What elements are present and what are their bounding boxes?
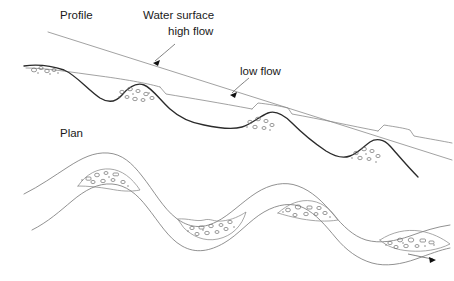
low-flow-segment-2 bbox=[160, 87, 252, 109]
figure-root: Profile Water surface high flow low flow… bbox=[0, 0, 454, 281]
low-flow-leader-line bbox=[232, 78, 249, 93]
high-flow-leader bbox=[153, 44, 175, 66]
profile-view-label: Profile bbox=[60, 9, 93, 21]
plan-point-bar-3 bbox=[278, 201, 338, 222]
flow-direction-arrow bbox=[408, 254, 436, 263]
profile-gravel-bar-4 bbox=[351, 147, 380, 163]
plan-view bbox=[24, 153, 450, 265]
profile-gravel-bar-3 bbox=[246, 117, 274, 131]
profile-bed-line bbox=[24, 65, 418, 177]
plan-view-label: Plan bbox=[60, 127, 83, 139]
water-surface-label-line1: Water surface bbox=[143, 9, 214, 21]
high-flow-arrowhead bbox=[153, 60, 160, 66]
low-flow-water-surface-line bbox=[26, 68, 452, 143]
plan-point-bar-2 bbox=[178, 212, 246, 240]
plan-point-bar-1 bbox=[78, 169, 140, 191]
low-flow-label: low flow bbox=[240, 65, 282, 77]
low-flow-arrowhead bbox=[230, 92, 237, 98]
plan-lower-bank-line bbox=[32, 184, 450, 265]
profile-gravel-bar-2 bbox=[118, 87, 154, 101]
plan-point-bar-2-outline bbox=[178, 212, 246, 240]
plan-point-bar-3-outline bbox=[278, 201, 338, 222]
flow-arrowhead bbox=[429, 257, 436, 263]
water-surface-label-line2: high flow bbox=[168, 25, 214, 37]
high-flow-water-surface-line bbox=[48, 32, 452, 160]
high-flow-leader-line bbox=[155, 44, 175, 61]
profile-view bbox=[24, 32, 452, 177]
riffle-pool-diagram: Profile Water surface high flow low flow… bbox=[0, 0, 454, 281]
